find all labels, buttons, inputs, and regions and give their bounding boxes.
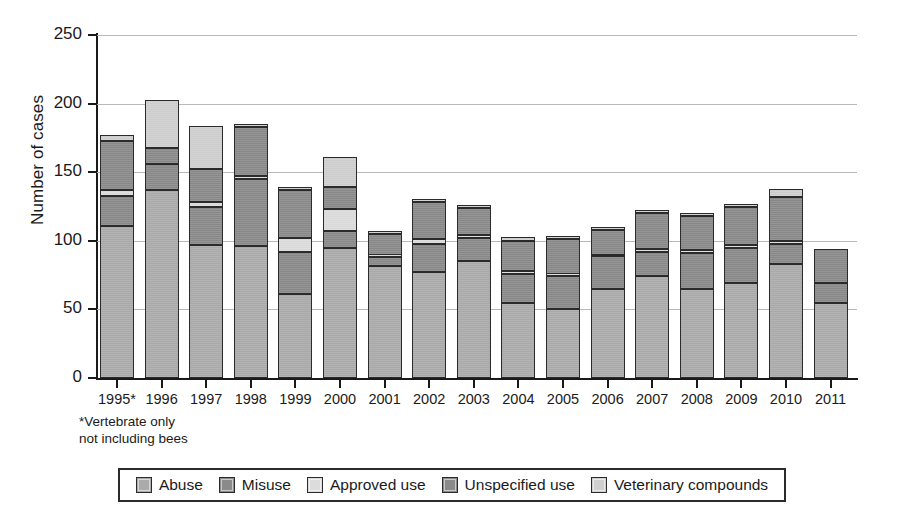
bar-segment-misuse[interactable] xyxy=(234,179,268,246)
bar-segment-abuse[interactable] xyxy=(591,289,625,378)
bar-segment-veterinary-compounds[interactable] xyxy=(591,227,625,230)
bar-segment-unspecified-use[interactable] xyxy=(100,141,134,190)
bar-segment-misuse[interactable] xyxy=(457,238,491,261)
bar-segment-misuse[interactable] xyxy=(769,244,803,265)
bar-segment-veterinary-compounds[interactable] xyxy=(368,231,402,234)
bar-segment-approved-use[interactable] xyxy=(501,271,535,274)
bar-segment-unspecified-use[interactable] xyxy=(368,234,402,255)
bar-segment-veterinary-compounds[interactable] xyxy=(769,189,803,197)
bar-segment-approved-use[interactable] xyxy=(769,241,803,244)
bar-segment-approved-use[interactable] xyxy=(680,250,714,253)
bar-segment-approved-use[interactable] xyxy=(278,238,312,252)
bar-1995[interactable] xyxy=(100,35,134,378)
bar-segment-misuse[interactable] xyxy=(635,252,669,277)
bar-segment-veterinary-compounds[interactable] xyxy=(680,213,714,216)
bar-segment-abuse[interactable] xyxy=(546,309,580,378)
bar-segment-abuse[interactable] xyxy=(457,261,491,378)
bar-segment-misuse[interactable] xyxy=(591,256,625,289)
bar-segment-abuse[interactable] xyxy=(680,289,714,378)
bar-1998[interactable] xyxy=(234,35,268,378)
bar-segment-unspecified-use[interactable] xyxy=(145,148,179,164)
bar-2008[interactable] xyxy=(680,35,714,378)
bar-1996[interactable] xyxy=(145,35,179,378)
bar-segment-unspecified-use[interactable] xyxy=(724,207,758,245)
bar-2011[interactable] xyxy=(814,35,848,378)
bar-segment-veterinary-compounds[interactable] xyxy=(501,237,535,241)
bar-segment-veterinary-compounds[interactable] xyxy=(234,124,268,127)
bar-segment-unspecified-use[interactable] xyxy=(323,187,357,209)
bar-segment-unspecified-use[interactable] xyxy=(501,241,535,271)
bar-2006[interactable] xyxy=(591,35,625,378)
bar-segment-veterinary-compounds[interactable] xyxy=(412,199,446,202)
bar-2005[interactable] xyxy=(546,35,580,378)
bar-2003[interactable] xyxy=(457,35,491,378)
bar-segment-abuse[interactable] xyxy=(368,266,402,379)
bar-segment-unspecified-use[interactable] xyxy=(412,202,446,239)
bar-1997[interactable] xyxy=(189,35,223,378)
bar-segment-unspecified-use[interactable] xyxy=(769,197,803,241)
bar-segment-abuse[interactable] xyxy=(145,190,179,378)
bar-segment-unspecified-use[interactable] xyxy=(189,169,223,202)
bar-2002[interactable] xyxy=(412,35,446,378)
bar-segment-misuse[interactable] xyxy=(501,274,535,303)
bar-segment-approved-use[interactable] xyxy=(546,273,580,276)
bar-segment-misuse[interactable] xyxy=(145,164,179,190)
bar-segment-misuse[interactable] xyxy=(546,276,580,309)
bar-segment-approved-use[interactable] xyxy=(100,190,134,195)
bar-2000[interactable] xyxy=(323,35,357,378)
bar-segment-abuse[interactable] xyxy=(234,246,268,378)
bar-segment-abuse[interactable] xyxy=(501,303,535,378)
bar-segment-misuse[interactable] xyxy=(680,253,714,289)
bar-segment-abuse[interactable] xyxy=(412,272,446,378)
bar-segment-misuse[interactable] xyxy=(278,252,312,295)
bar-2009[interactable] xyxy=(724,35,758,378)
bar-segment-abuse[interactable] xyxy=(635,276,669,378)
bar-segment-unspecified-use[interactable] xyxy=(457,208,491,235)
bar-segment-veterinary-compounds[interactable] xyxy=(145,100,179,148)
bar-segment-abuse[interactable] xyxy=(769,264,803,378)
bar-segment-abuse[interactable] xyxy=(278,294,312,378)
bar-2007[interactable] xyxy=(635,35,669,378)
bar-segment-unspecified-use[interactable] xyxy=(591,230,625,255)
bar-segment-veterinary-compounds[interactable] xyxy=(323,157,357,187)
bar-segment-abuse[interactable] xyxy=(100,226,134,378)
bar-segment-unspecified-use[interactable] xyxy=(278,190,312,238)
bar-segment-veterinary-compounds[interactable] xyxy=(278,187,312,190)
bar-segment-veterinary-compounds[interactable] xyxy=(457,205,491,208)
bar-segment-unspecified-use[interactable] xyxy=(546,239,580,273)
bar-segment-approved-use[interactable] xyxy=(635,249,669,252)
bar-segment-misuse[interactable] xyxy=(724,248,758,284)
bar-segment-unspecified-use[interactable] xyxy=(635,213,669,249)
bar-2010[interactable] xyxy=(769,35,803,378)
bar-segment-approved-use[interactable] xyxy=(234,176,268,179)
bar-segment-approved-use[interactable] xyxy=(323,209,357,231)
bar-segment-misuse[interactable] xyxy=(412,244,446,273)
bar-segment-veterinary-compounds[interactable] xyxy=(635,210,669,213)
legend-item-misuse[interactable]: Misuse xyxy=(219,476,291,494)
bar-segment-veterinary-compounds[interactable] xyxy=(100,135,134,140)
bar-segment-unspecified-use[interactable] xyxy=(814,249,848,283)
bar-segment-approved-use[interactable] xyxy=(724,245,758,248)
bar-segment-abuse[interactable] xyxy=(189,245,223,378)
legend-item-approved-use[interactable]: Approved use xyxy=(307,476,426,494)
legend-item-abuse[interactable]: Abuse xyxy=(136,476,203,494)
bar-2001[interactable] xyxy=(368,35,402,378)
bar-segment-approved-use[interactable] xyxy=(412,239,446,243)
bar-segment-veterinary-compounds[interactable] xyxy=(724,204,758,207)
bar-segment-veterinary-compounds[interactable] xyxy=(546,236,580,239)
bar-segment-abuse[interactable] xyxy=(814,303,848,378)
bar-segment-unspecified-use[interactable] xyxy=(680,216,714,250)
bar-segment-approved-use[interactable] xyxy=(189,202,223,206)
bar-1999[interactable] xyxy=(278,35,312,378)
bar-segment-approved-use[interactable] xyxy=(457,235,491,238)
bar-segment-veterinary-compounds[interactable] xyxy=(189,126,223,170)
bar-segment-abuse[interactable] xyxy=(323,248,357,378)
bar-segment-abuse[interactable] xyxy=(724,283,758,378)
bar-segment-misuse[interactable] xyxy=(814,283,848,302)
bar-2004[interactable] xyxy=(501,35,535,378)
bar-segment-misuse[interactable] xyxy=(368,257,402,265)
legend-item-veterinary-compounds[interactable]: Veterinary compounds xyxy=(591,476,768,494)
bar-segment-misuse[interactable] xyxy=(323,231,357,247)
legend-item-unspecified-use[interactable]: Unspecified use xyxy=(442,476,575,494)
bar-segment-unspecified-use[interactable] xyxy=(234,127,268,176)
